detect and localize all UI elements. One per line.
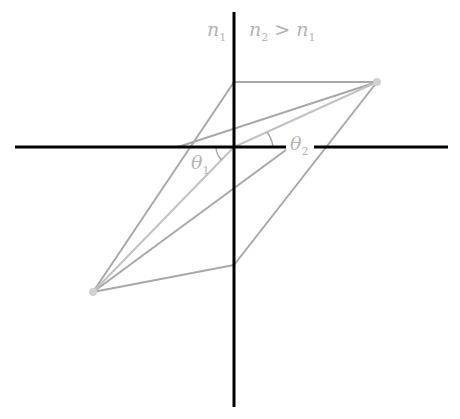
theta2-symbol: θ [290,132,301,154]
diagonal-upper [178,82,377,147]
n1-rhs-subscript: 1 [309,31,316,44]
theta1-label: θ1 [191,153,209,176]
incident-ray [93,147,234,292]
medium2-relation-label: n2 > n1 [249,20,316,43]
theta2-label: θ2 [290,134,308,157]
theta1-arc [216,147,222,160]
n1-rhs-symbol: n [296,18,308,40]
left-upper-edge [93,82,234,292]
theta1-subscript: 1 [202,164,209,177]
bottom-left-point [89,288,97,296]
theta1-symbol: θ [191,151,202,173]
relation-symbol: > [268,18,296,40]
top-right-point [373,78,381,86]
n2-symbol: n [249,18,261,40]
medium1-label: n1 [207,20,226,43]
theta2-subscript: 2 [301,145,308,158]
n1-subscript: 1 [219,31,226,44]
n1-symbol: n [207,18,219,40]
refraction-diagram [0,0,460,419]
theta2-arc [267,132,273,147]
